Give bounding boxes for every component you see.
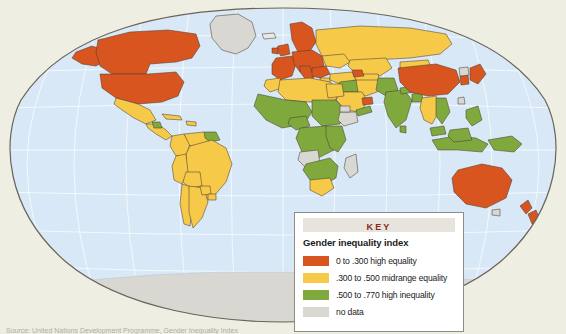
key-row-high-inequality: .500 to .770 high inequality bbox=[303, 286, 457, 303]
region-uae-qatar bbox=[362, 97, 373, 105]
key-label-no-data: no data bbox=[336, 307, 364, 317]
key-swatch-high-inequality bbox=[303, 290, 329, 300]
key-label-midrange-equality: .300 to .500 midrange equality bbox=[336, 273, 447, 283]
region-caucasus bbox=[352, 70, 364, 77]
region-tasmania bbox=[492, 209, 500, 216]
region-sri-lanka bbox=[400, 126, 406, 133]
key-header-bar: KEY bbox=[303, 218, 455, 232]
key-label-high-equality: 0 to .300 high equality bbox=[336, 256, 417, 266]
map-key-box: KEY Gender inequality index 0 to .300 hi… bbox=[294, 212, 464, 332]
region-taiwan bbox=[458, 97, 465, 104]
key-swatch-no-data bbox=[303, 307, 329, 317]
world-map-figure: KEY Gender inequality index 0 to .300 hi… bbox=[0, 0, 566, 334]
region-egypt bbox=[326, 84, 344, 98]
region-malaysia bbox=[430, 126, 446, 136]
key-swatch-midrange-equality bbox=[303, 273, 329, 283]
key-row-no-data: no data bbox=[303, 303, 457, 320]
source-note: Source: United Nations Development Progr… bbox=[6, 327, 238, 334]
key-title: Gender inequality index bbox=[303, 237, 457, 248]
region-borneo bbox=[448, 128, 472, 142]
region-paraguay bbox=[200, 186, 211, 195]
key-swatch-high-equality bbox=[303, 256, 329, 266]
region-ireland bbox=[272, 48, 278, 54]
region-eritrea-djibouti bbox=[340, 106, 350, 112]
region-iceland bbox=[262, 33, 276, 39]
region-uruguay bbox=[208, 194, 216, 200]
region-north-korea bbox=[459, 67, 469, 76]
region-guatemala-belize bbox=[152, 122, 162, 128]
key-label-high-inequality: .500 to .770 high inequality bbox=[336, 290, 435, 300]
key-header-label: KEY bbox=[367, 222, 392, 232]
region-south-korea bbox=[460, 75, 469, 85]
key-row-high-equality: 0 to .300 high equality bbox=[303, 252, 457, 269]
key-row-midrange-equality: .300 to .500 midrange equality bbox=[303, 269, 457, 286]
gender-inequality-world-map bbox=[0, 0, 566, 334]
region-hispaniola bbox=[186, 121, 196, 126]
